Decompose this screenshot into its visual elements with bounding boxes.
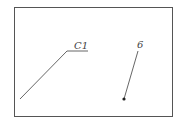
six-leader-dot [122, 97, 125, 100]
six-leader-line [124, 51, 138, 99]
c1-leader-line [20, 51, 88, 99]
diagram-canvas: C1 6 [0, 0, 188, 131]
leader-lines [0, 0, 188, 131]
label-c1: C1 [74, 41, 88, 51]
label-6: 6 [137, 40, 143, 50]
